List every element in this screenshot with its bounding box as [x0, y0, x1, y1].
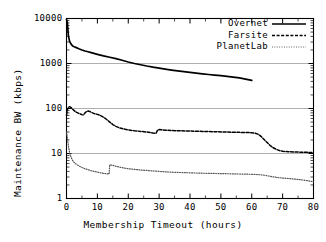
- series-line-planetlab: [67, 132, 314, 182]
- x-tick-label: 80: [296, 202, 326, 212]
- y-tick-label: 10: [19, 148, 63, 158]
- y-tick-label: 100: [19, 103, 63, 113]
- x-axis-title: Membership Timeout (hours): [0, 219, 326, 230]
- series-line-farsite: [67, 107, 314, 153]
- legend-label-overnet: Overnet: [172, 18, 268, 28]
- chart-figure: Membership Timeout (hours) Maintenance B…: [0, 0, 326, 242]
- y-tick-label: 10000: [19, 13, 63, 23]
- legend-label-farsite: Farsite: [172, 30, 268, 40]
- legend-label-planetlab: PlanetLab: [172, 41, 268, 51]
- y-tick-label: 1000: [19, 58, 63, 68]
- y-axis-title: Maintenance BW (kbps): [12, 68, 23, 197]
